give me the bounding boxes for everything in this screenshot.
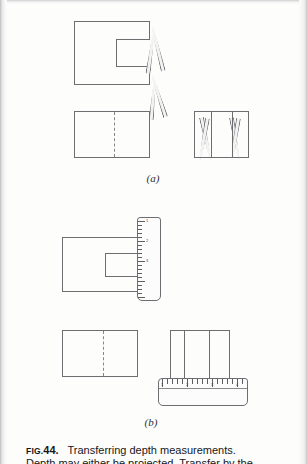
scale-tick-minor [138, 289, 142, 290]
caption-fig-number: 44. [43, 444, 58, 456]
scale-tick-minor [138, 273, 142, 274]
scale-tick-minor [138, 229, 142, 230]
scale-numeral: 3 [146, 259, 148, 263]
page-edge-top [0, 0, 307, 4]
side-view-division-line [211, 112, 212, 157]
scale-numeral: 3 [211, 383, 213, 387]
side-view-division-line [232, 112, 233, 157]
side-view-division-line [209, 331, 210, 378]
scale-tick-minor [192, 379, 193, 384]
page-edge-left [0, 0, 7, 464]
scale-tick-major [138, 281, 145, 282]
side-view-outline-segment [170, 330, 171, 378]
scale-tick-minor [177, 379, 178, 384]
scale-tick-major [138, 241, 145, 242]
scale-tick-minor [197, 379, 198, 384]
figure-caption: FIG.44. Transferring depth measurements. [26, 440, 294, 458]
side-view-outline-segment [229, 330, 230, 378]
page-edge-right [299, 0, 307, 464]
scale-tick-minor [222, 379, 223, 384]
block-outline-segment [74, 21, 75, 84]
scale-tick-minor [138, 233, 142, 234]
block-outline-segment [62, 291, 138, 292]
scale-tick-minor [138, 237, 142, 238]
block-outline-segment [62, 237, 138, 238]
block-outline-segment [74, 21, 150, 22]
scale-tick-major [138, 297, 145, 298]
scale-tick-minor [138, 285, 142, 286]
scale-tick-minor [138, 293, 142, 294]
caption-fig-prefix: FIG. [26, 446, 43, 456]
front-view-outline [62, 330, 138, 377]
notch-edge [116, 39, 150, 40]
scale-tick-major [138, 261, 145, 262]
scale-numeral: 2 [146, 239, 148, 243]
block-outline-segment [149, 21, 150, 39]
notch-edge [105, 253, 138, 254]
notch-edge [105, 253, 106, 277]
scale-tick-major [138, 221, 145, 222]
scale-tick-minor [138, 277, 142, 278]
scale-tick-minor [138, 245, 142, 246]
scale-numeral: 1 [146, 219, 148, 223]
front-view-outline [74, 111, 150, 158]
scale-tick-minor [172, 379, 173, 384]
block-outline-segment [62, 237, 63, 291]
scale-tick-minor [167, 379, 168, 384]
scale-tick-minor [138, 265, 142, 266]
side-view-outline [194, 111, 249, 158]
notch-edge [116, 39, 117, 67]
scale-tick-minor [138, 249, 142, 250]
scale-tick-minor [232, 379, 233, 384]
scale-tick-minor [217, 379, 218, 384]
part-b-label: (b) [128, 416, 174, 428]
caption-second-line: Depth may either be projected. Transfer … [26, 457, 294, 464]
side-view-outline-segment [170, 330, 230, 331]
scale-numeral: 2 [186, 383, 188, 387]
scale-graduation-baseline [159, 388, 247, 389]
hidden-centerline [114, 112, 115, 157]
caption-title: Transferring depth measurements. [68, 444, 236, 456]
scale-tick-minor [138, 253, 142, 254]
scale-numeral: 4 [236, 383, 238, 387]
notch-edge [105, 276, 138, 277]
hidden-centerline [103, 331, 104, 376]
part-a-label: (a) [130, 172, 176, 184]
scale-tick-minor [138, 257, 142, 258]
scale-numeral: 1 [161, 383, 163, 387]
scale-tick-minor [138, 269, 142, 270]
scale-tick-minor [138, 225, 142, 226]
side-view-division-line [184, 331, 185, 378]
block-outline-segment [74, 84, 150, 85]
scanned-page: (a) [0, 0, 307, 464]
scale-tick-minor [242, 379, 243, 384]
scale-tick-minor [207, 379, 208, 384]
scale-tick-minor [182, 379, 183, 384]
notch-edge [116, 66, 150, 67]
scale-tick-minor [202, 379, 203, 384]
scale-tick-minor [227, 379, 228, 384]
